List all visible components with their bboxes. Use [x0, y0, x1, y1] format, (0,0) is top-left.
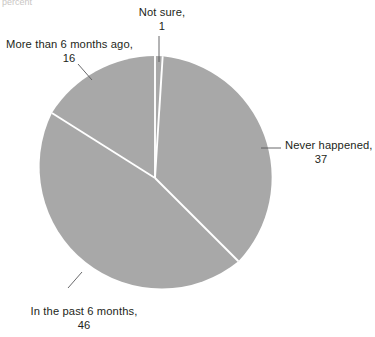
slice-label-never-happened: Never happened, 37: [285, 139, 373, 166]
slice-label-more-than-6-months-value: 16: [6, 52, 132, 66]
pie-chart: percent Not sure,: [0, 0, 375, 337]
slice-label-not-sure: Not sure, 1: [128, 6, 196, 33]
leader-line-in-past-6-months: [68, 272, 82, 288]
slice-label-in-past-6-months-text: In the past 6 months,: [31, 305, 138, 317]
slice-label-never-happened-text: Never happened,: [285, 139, 373, 151]
slice-label-more-than-6-months-text: More than 6 months ago,: [6, 38, 133, 50]
slice-label-not-sure-text: Not sure,: [139, 6, 185, 18]
slice-label-in-past-6-months-value: 46: [22, 319, 146, 333]
slice-label-never-happened-value: 37: [285, 153, 357, 167]
slice-label-not-sure-value: 1: [128, 20, 196, 34]
slice-label-in-past-6-months: In the past 6 months, 46: [22, 305, 146, 332]
slice-label-more-than-6-months: More than 6 months ago, 16: [6, 38, 132, 65]
leader-line-more-than-6-months: [78, 64, 92, 80]
